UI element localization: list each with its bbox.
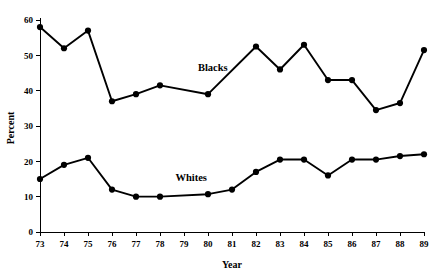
data-point [157, 82, 163, 88]
y-axis-title: Percent [5, 111, 16, 144]
x-tick-label: 85 [324, 239, 334, 249]
data-point [133, 194, 139, 200]
x-tick-label: 80 [204, 239, 214, 249]
data-point [421, 47, 427, 53]
data-point [205, 191, 211, 197]
data-point [349, 77, 355, 83]
y-tick-label: 10 [24, 192, 34, 202]
series-blacks [37, 24, 427, 113]
x-tick-label: 82 [252, 239, 262, 249]
x-tick-label: 83 [276, 239, 286, 249]
data-series-layer [37, 24, 427, 200]
x-axis-group: 7374757677787980818283848586878889 [36, 232, 430, 249]
data-point [229, 187, 235, 193]
x-tick-label: 87 [372, 239, 382, 249]
y-tick-label: 50 [24, 51, 34, 61]
x-tick-label: 86 [348, 239, 358, 249]
y-axis-group: 0102030405060 [24, 15, 40, 237]
data-point [253, 43, 259, 49]
data-point [277, 156, 283, 162]
y-tick-label: 20 [24, 157, 34, 167]
data-point [61, 162, 67, 168]
data-point [37, 176, 43, 182]
data-point [301, 156, 307, 162]
data-point [133, 91, 139, 97]
series-whites [37, 151, 427, 200]
x-axis-title: Year [222, 259, 243, 270]
data-point [109, 187, 115, 193]
data-point [397, 100, 403, 106]
data-point [301, 42, 307, 48]
x-tick-label: 76 [108, 239, 118, 249]
x-tick-label: 73 [36, 239, 46, 249]
line-chart: 0102030405060 73747576777879808182838485… [0, 0, 440, 278]
data-point [37, 24, 43, 30]
data-point [325, 77, 331, 83]
data-point [349, 156, 355, 162]
data-point [61, 45, 67, 51]
data-point [325, 172, 331, 178]
x-tick-label: 81 [228, 239, 238, 249]
x-tick-label: 78 [156, 239, 166, 249]
x-tick-label: 88 [396, 239, 406, 249]
series-label-whites: Whites [175, 172, 207, 183]
data-point [373, 156, 379, 162]
data-point [277, 66, 283, 72]
y-axis-ticks: 0102030405060 [24, 15, 40, 237]
y-tick-label: 60 [24, 15, 34, 25]
data-point [397, 153, 403, 159]
x-tick-label: 79 [180, 239, 190, 249]
x-tick-label: 77 [132, 239, 142, 249]
data-point [85, 155, 91, 161]
x-tick-label: 74 [60, 239, 70, 249]
y-tick-label: 0 [29, 227, 34, 237]
series-inline-labels: BlacksWhites [175, 62, 227, 183]
series-label-blacks: Blacks [198, 62, 228, 73]
y-tick-label: 40 [24, 86, 34, 96]
data-point [421, 151, 427, 157]
x-axis-ticks: 7374757677787980818283848586878889 [36, 232, 430, 249]
data-point [157, 194, 163, 200]
chart-container: 0102030405060 73747576777879808182838485… [0, 0, 440, 278]
data-point [253, 169, 259, 175]
x-tick-label: 75 [84, 239, 94, 249]
data-point [373, 107, 379, 113]
x-tick-label: 84 [300, 239, 310, 249]
data-point [109, 98, 115, 104]
data-point [205, 91, 211, 97]
series-line [40, 27, 424, 110]
data-point [85, 28, 91, 34]
x-tick-label: 89 [420, 239, 430, 249]
y-tick-label: 30 [24, 121, 34, 131]
